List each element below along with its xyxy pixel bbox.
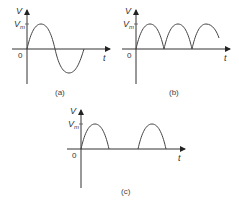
- half-wave-rectified: [81, 124, 166, 149]
- full-wave-rectified: [136, 24, 219, 49]
- waveform-diagram: V Vm 0 t (a) V Vm 0 t (b) V Vm 0 t (c): [0, 0, 239, 206]
- y-axis-label-b: V: [125, 6, 132, 16]
- panel-a: V Vm 0 t (a): [12, 6, 110, 97]
- caption-c: (c): [121, 187, 131, 196]
- origin-label-b: 0: [127, 51, 132, 60]
- y-axis-label-c: V: [70, 106, 77, 116]
- panel-b: V Vm 0 t (b): [122, 6, 230, 97]
- origin-label-c: 0: [72, 151, 77, 160]
- vm-label-c: Vm: [68, 119, 79, 130]
- x-axis-label-c: t: [178, 153, 181, 163]
- x-axis-label-a: t: [103, 53, 106, 63]
- caption-b: (b): [169, 88, 179, 97]
- vm-label-a: Vm: [14, 19, 25, 30]
- caption-a: (a): [55, 88, 65, 97]
- panel-c: V Vm 0 t (c): [67, 106, 185, 196]
- vm-label-b: Vm: [123, 19, 134, 30]
- x-axis-label-b: t: [224, 53, 227, 63]
- origin-label-a: 0: [18, 51, 23, 60]
- y-axis-label-a: V: [16, 6, 23, 16]
